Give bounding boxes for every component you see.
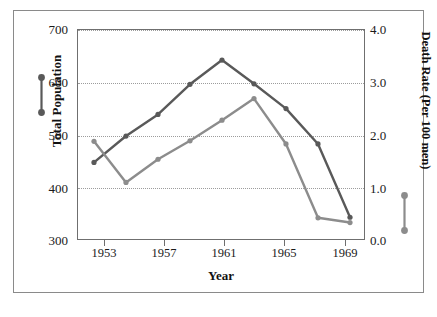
data-point [123,180,128,185]
data-point [251,96,256,101]
data-point [91,139,96,144]
y-tick-right-1-0: 1.0 [370,181,406,197]
data-point [251,81,256,86]
y-tick-left-700: 700 [28,22,68,38]
series-line-2 [94,99,350,223]
data-point [187,82,192,87]
plot-inner [78,30,364,239]
x-tick-label-1961: 1961 [200,246,248,261]
x-tick-label-1953: 1953 [80,246,128,261]
data-point [347,220,352,225]
y-tick-right-3-0: 3.0 [370,75,406,91]
data-point [155,157,160,162]
data-point [315,215,320,220]
data-point [283,141,288,146]
data-point [91,160,96,165]
y-tick-right-2-0: 2.0 [370,128,406,144]
data-point [315,141,320,146]
data-point [219,118,224,123]
data-point [155,112,160,117]
y-tick-right-0-0: 0.0 [370,233,406,249]
series-canvas [78,30,366,241]
x-axis-label: Year [77,268,365,284]
data-point [187,138,192,143]
data-point [123,133,128,138]
x-tick-label-1969: 1969 [321,246,369,261]
plot-area [77,29,365,240]
y-tick-left-300: 300 [28,233,68,249]
y-axis-right-label: Death Rate (Per 100 men) [418,6,433,196]
x-tick-label-1957: 1957 [140,246,188,261]
y-axis-left-label: Total Population [49,21,65,181]
y-tick-left-400: 400 [28,181,68,197]
legend-marker-death-rate [400,191,409,235]
chart-figure: Total Population Death Rate (Per 100 men… [0,0,437,317]
data-point [219,57,224,62]
x-tick-label-1965: 1965 [260,246,308,261]
series-line-1 [94,60,350,217]
y-tick-right-4-0: 4.0 [370,22,406,38]
data-point [347,215,352,220]
y-tick-left-600: 600 [28,75,68,91]
data-point [283,106,288,111]
y-tick-left-500: 500 [28,128,68,144]
